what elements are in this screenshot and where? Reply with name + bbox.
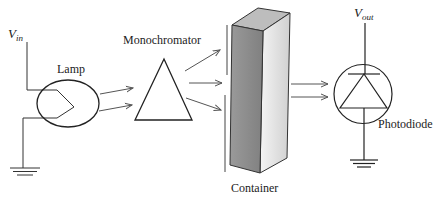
- container-front-face: [230, 25, 263, 173]
- lamp-bulb: [37, 80, 99, 127]
- light-beam-arrows-1: [99, 88, 133, 111]
- lamp-wire: [23, 42, 74, 168]
- photodiode: [334, 23, 392, 167]
- photodiode-triangle: [340, 74, 387, 108]
- vin-label: Vin: [8, 26, 23, 43]
- monochromator-label: Monochromator: [123, 33, 201, 47]
- vout-label: Vout: [354, 5, 374, 22]
- optical-setup-diagram: Vin Lamp Monochromator Container V: [0, 0, 434, 200]
- container-label: Container: [231, 181, 278, 195]
- slit: [225, 25, 227, 172]
- container-side-face: [260, 13, 290, 173]
- lamp-label: Lamp: [57, 62, 85, 76]
- light-beam-arrows-2: [185, 50, 222, 110]
- container-box: [230, 8, 290, 173]
- photodiode-label: Photodiode: [378, 117, 433, 131]
- photodiode-circle: [334, 65, 392, 124]
- light-beam-arrows-3: [291, 84, 328, 97]
- monochromator-prism: [135, 59, 192, 120]
